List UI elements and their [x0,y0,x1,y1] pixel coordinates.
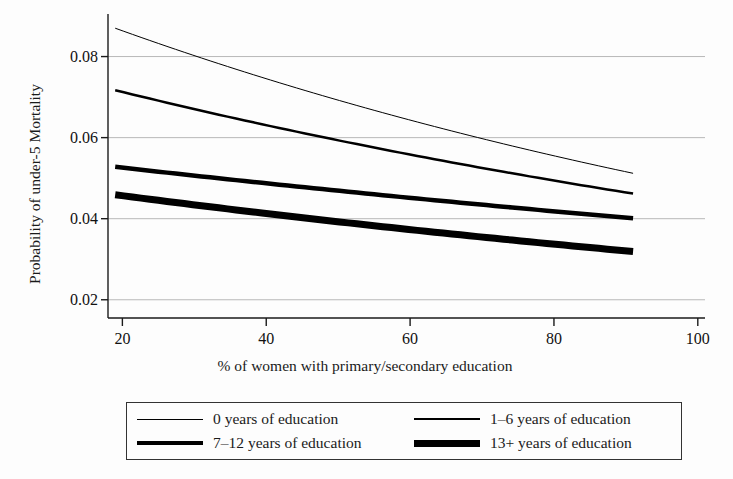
legend-item: 1–6 years of education [404,407,681,431]
x-tick-label: 20 [114,330,130,348]
legend-label: 13+ years of education [490,435,632,451]
legend-label: 0 years of education [213,411,338,427]
chart-figure: 0.020.040.060.08 20406080100 Probability… [0,0,733,479]
legend-item: 0 years of education [127,407,404,431]
legend-item: 7–12 years of education [127,431,404,455]
chart-legend: 0 years of education1–6 years of educati… [126,402,682,460]
legend-line-icon [414,418,480,421]
legend-label: 1–6 years of education [490,411,631,427]
axes-group [108,14,705,318]
x-tick-label: 60 [402,330,418,348]
legend-item: 13+ years of education [404,431,681,455]
data-curve-3 [115,195,633,252]
data-curve-0 [115,28,633,173]
legend-line-icon [137,441,203,446]
x-tick-label: 40 [258,330,274,348]
data-curves-group [115,28,633,251]
y-axis-title: Probability of under-5 Mortality [26,59,44,309]
legend-label: 7–12 years of education [213,435,362,451]
legend-line-icon [414,440,480,447]
x-tick-label: 100 [686,330,710,348]
x-tick-label: 80 [546,330,562,348]
data-curve-2 [115,167,633,218]
x-axis-title: % of women with primary/secondary educat… [120,357,610,375]
legend-line-icon [137,419,203,420]
tick-marks-group [101,57,698,326]
data-curve-1 [115,90,633,193]
